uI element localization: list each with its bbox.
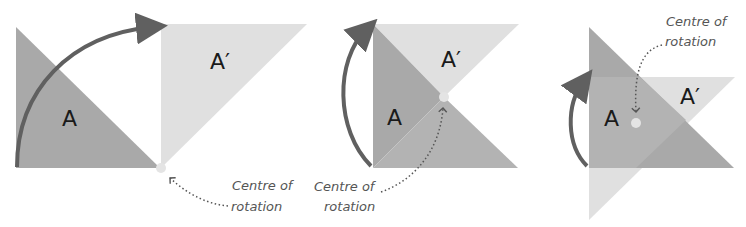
label-original: A	[604, 106, 619, 131]
label-image: A′	[680, 84, 700, 109]
note-line2: rotation	[231, 199, 282, 214]
rotation-arrow-icon	[343, 30, 371, 166]
centre-of-rotation-dot	[156, 163, 166, 173]
panel-1: A A′ Centre of rotation	[16, 24, 307, 214]
rotation-diagram: A A′ Centre of rotation A A′ Centre of r…	[0, 0, 746, 227]
label-original: A	[387, 105, 402, 130]
label-image: A′	[210, 49, 230, 74]
note-line1: Centre of	[314, 179, 377, 194]
triangle-original	[16, 27, 160, 168]
note-line2: rotation	[665, 34, 716, 49]
rotation-arrow-icon	[571, 82, 587, 166]
centre-of-rotation-dot	[439, 92, 449, 102]
panel-3: A A′ Centre of rotation	[571, 14, 735, 220]
panel-2: A A′ Centre of rotation	[314, 24, 519, 214]
pointer-dotted-line	[170, 178, 228, 206]
note-line1: Centre of	[666, 14, 729, 29]
label-image: A′	[441, 47, 461, 72]
triangle-image	[161, 24, 307, 168]
label-original: A	[62, 106, 77, 131]
note-line2: rotation	[324, 199, 375, 214]
centre-of-rotation-dot	[631, 118, 641, 128]
note-line1: Centre of	[232, 178, 295, 193]
